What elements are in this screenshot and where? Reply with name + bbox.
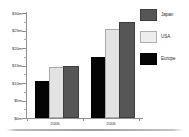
- bottom-edge-shadow: [6, 129, 183, 131]
- bar-japan-2006: [119, 22, 135, 119]
- y-axis-tick-label-wrap: $15m: [0, 63, 22, 68]
- y-axis-tick-label: $10m: [1, 81, 22, 86]
- legend-swatch-japan: [140, 9, 157, 21]
- legend-swatch-usa: [140, 31, 157, 43]
- y-axis-tick-label-wrap: $20m: [0, 46, 22, 51]
- y-axis-tick-label: $30m: [1, 11, 22, 16]
- legend-swatch-europe: [140, 53, 157, 65]
- y-axis-tick-label-wrap: $30m: [0, 11, 22, 16]
- y-axis-tick-label: $5m: [1, 98, 22, 103]
- y-axis-tick-label-wrap: $25m: [0, 28, 22, 33]
- legend-label-europe: Europe: [161, 56, 176, 62]
- y-axis-tick-label-wrap: $5m: [0, 98, 22, 103]
- bar-japan-2005: [63, 66, 79, 118]
- x-axis-line: [26, 118, 143, 119]
- x-axis-group-label-2005: 2005: [43, 121, 67, 127]
- legend-label-japan: Japan: [161, 12, 173, 18]
- bar-chart: $30m$25m$20m$15m$10m$5m$0m 20052006 Japa…: [0, 0, 189, 137]
- y-axis-tick-label: $20m: [1, 46, 22, 51]
- legend-item-japan: Japan: [140, 9, 188, 22]
- legend-label-usa: USA: [161, 34, 170, 40]
- y-axis-tick-label-wrap: $0m: [0, 116, 22, 121]
- y-axis-tick-label: $25m: [1, 28, 22, 33]
- x-axis-group-label-2006: 2006: [99, 121, 123, 127]
- bars-layer: [27, 13, 139, 118]
- x-axis-origin-tick: [27, 118, 28, 121]
- legend-item-usa: USA: [140, 31, 188, 44]
- chart-legend: JapanUSAEurope: [140, 9, 188, 75]
- y-axis-tick-label-wrap: $10m: [0, 81, 22, 86]
- y-axis-tick-label: $0m: [1, 116, 22, 121]
- x-axis-tick: [83, 118, 84, 121]
- x-axis-tick: [139, 118, 140, 121]
- y-axis-tick-label: $15m: [1, 63, 22, 68]
- legend-item-europe: Europe: [140, 53, 188, 66]
